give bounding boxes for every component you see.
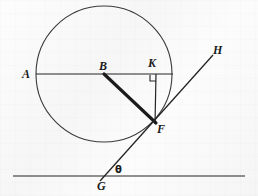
right-angle-marker-k — [150, 75, 156, 81]
point-label-h: H — [213, 44, 222, 56]
diagram-canvas — [0, 0, 258, 196]
point-label-a: A — [22, 68, 30, 80]
angle-label-theta: θ — [115, 165, 122, 175]
point-label-k: K — [148, 57, 156, 69]
point-label-b: B — [99, 60, 107, 72]
segment-bf — [104, 74, 156, 123]
point-label-g: G — [97, 180, 106, 192]
point-label-f: F — [157, 123, 165, 135]
geometry-figure: A B K F G H θ — [0, 0, 258, 196]
